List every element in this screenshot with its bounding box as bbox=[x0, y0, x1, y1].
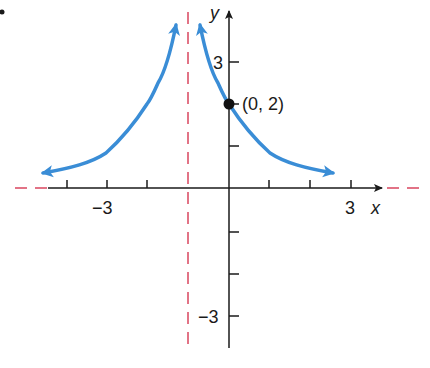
x-tick-label-3: 3 bbox=[345, 198, 355, 218]
y-axis-label: y bbox=[208, 3, 220, 23]
point-label: (0, 2) bbox=[242, 94, 284, 114]
bullet-dot bbox=[0, 10, 5, 15]
x-tick-label-neg3: −3 bbox=[92, 198, 113, 218]
graph: (0, 2) 3 −3 −3 3 x y bbox=[0, 0, 430, 368]
y-tick-label-3: 3 bbox=[213, 53, 223, 73]
x-ticks bbox=[67, 180, 351, 188]
y-tick-label-neg3: −3 bbox=[198, 307, 219, 327]
x-axis-label: x bbox=[370, 198, 381, 218]
curve-left-branch bbox=[43, 25, 176, 173]
point-marker bbox=[224, 99, 235, 110]
